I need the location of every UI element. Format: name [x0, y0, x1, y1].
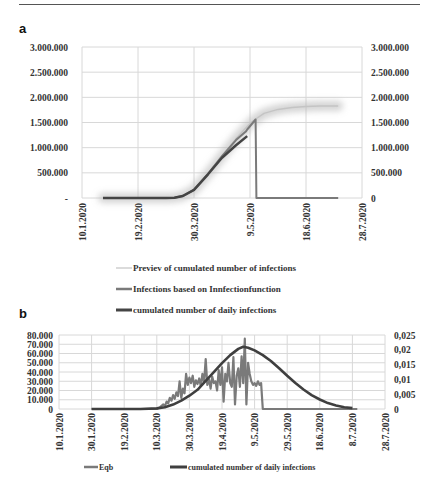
y-tick-right: 0,025	[394, 331, 416, 341]
chart-b: 010.00020.00030.00040.00050.00060.00070.…	[27, 331, 416, 473]
y-tick-left: 50.000	[27, 358, 53, 368]
y-tick-left: 2.500.000	[30, 68, 68, 78]
x-tick: 8.7.2020	[348, 413, 358, 447]
chart-a: -0500.000500.0001.000.0001.000.0001.500.…	[30, 43, 409, 316]
y-tick-left: 2.000.000	[30, 93, 68, 103]
legend-label-eqb: Eqb	[99, 463, 114, 472]
x-tick: 9.5.2020	[246, 203, 256, 237]
x-tick: 30.3.2020	[185, 413, 195, 451]
x-tick: 10.3.2020	[152, 413, 162, 451]
x-tick: 28.7.2020	[358, 203, 368, 241]
x-tick: 19.4.2020	[218, 413, 228, 451]
y-tick-right: 500.000	[371, 168, 402, 178]
x-tick: 30.3.2020	[190, 203, 200, 241]
x-tick: 10.1.2020	[78, 203, 88, 241]
y-tick-left: 0	[48, 405, 53, 415]
figure-canvas: -0500.000500.0001.000.0001.000.0001.500.…	[0, 0, 440, 482]
legend-label: Previev of cumulated number of infection…	[133, 263, 296, 273]
y-tick-right: 0	[371, 194, 376, 204]
y-tick-right: 1.500.000	[371, 118, 409, 128]
x-tick: 10.1.2020	[55, 413, 65, 451]
y-tick-left: 1.000.000	[30, 143, 68, 153]
y-tick-left: 70.000	[27, 340, 53, 350]
y-tick-right: 1.000.000	[371, 143, 409, 153]
y-tick-right: 0,02	[394, 345, 411, 355]
legend-label-cumulated: cumulated number of daily infections	[188, 463, 315, 472]
y-tick-left: 500.000	[37, 168, 68, 178]
x-tick: 9.5.2020	[250, 413, 260, 447]
y-tick-left: 10.000	[27, 395, 53, 405]
y-tick-right: 2.500.000	[371, 68, 409, 78]
x-tick: 19.2.2020	[134, 203, 144, 241]
y-tick-right: 3.000.000	[371, 43, 409, 53]
y-tick-left: 80.000	[27, 331, 53, 341]
y-tick-left: 3.000.000	[30, 43, 68, 53]
legend-label: cumulated number of daily infections	[133, 305, 277, 315]
y-tick-right: 0,005	[394, 390, 416, 400]
y-tick-left: 1.500.000	[30, 118, 68, 128]
x-tick: 29.5.2020	[283, 413, 293, 451]
x-tick: 18.6.2020	[302, 203, 312, 241]
y-tick-left: 60.000	[27, 349, 53, 359]
y-tick-right: 2.000.000	[371, 93, 409, 103]
x-tick: 19.2.2020	[120, 413, 130, 451]
y-tick-left: -	[65, 194, 68, 204]
x-tick: 18.6.2020	[315, 413, 325, 451]
legend-label: Infections based on Innfectionfunction	[133, 284, 281, 294]
x-tick: 30.1.2020	[87, 413, 97, 451]
y-tick-left: 30.000	[27, 377, 53, 387]
y-tick-left: 40.000	[27, 368, 53, 378]
y-tick-right: 0	[394, 405, 399, 415]
y-tick-right: 0,01	[394, 375, 411, 385]
x-tick: 28.7.2020	[381, 413, 391, 451]
y-tick-left: 20.000	[27, 386, 53, 396]
y-tick-right: 0,015	[394, 360, 416, 370]
